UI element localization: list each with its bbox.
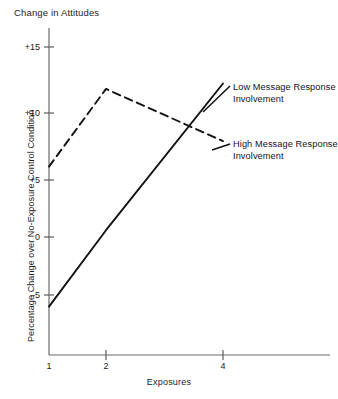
series-line-high-involvement	[49, 89, 223, 167]
leader-line-low-involvement	[203, 86, 230, 112]
attitude-change-line-chart: Change in Attitudes Percentage Change ov…	[0, 0, 338, 399]
series-line-low-involvement	[49, 84, 223, 307]
leader-line-high-involvement	[212, 144, 230, 150]
plot-area	[0, 0, 338, 399]
